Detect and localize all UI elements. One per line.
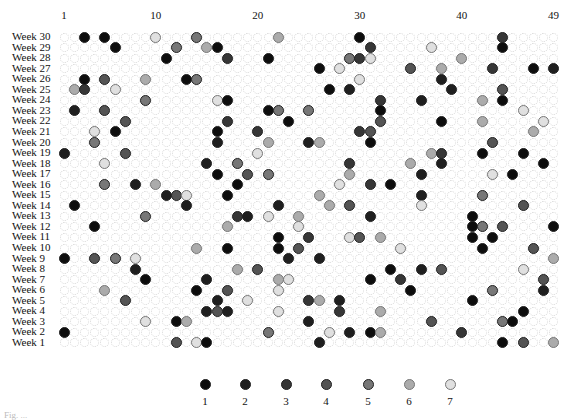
grid-cell xyxy=(90,307,99,316)
grid-cell xyxy=(233,127,242,136)
grid-cell xyxy=(386,338,395,347)
grid-cell xyxy=(233,138,242,147)
grid-cell xyxy=(386,307,395,316)
grid-cell xyxy=(90,286,99,295)
grid-cell xyxy=(202,222,211,231)
grid-cell xyxy=(386,54,395,63)
grid-cell xyxy=(60,286,69,295)
data-point xyxy=(538,285,549,296)
data-point xyxy=(334,295,345,306)
grid-cell xyxy=(151,191,160,200)
grid-cell xyxy=(345,212,354,221)
grid-cell xyxy=(243,233,252,242)
grid-cell xyxy=(274,127,283,136)
grid-cell xyxy=(202,265,211,274)
grid-cell xyxy=(406,222,415,231)
grid-cell xyxy=(70,222,79,231)
grid-cell xyxy=(396,159,405,168)
grid-cell xyxy=(539,127,548,136)
data-point xyxy=(528,63,539,74)
grid-cell xyxy=(100,244,109,253)
grid-cell xyxy=(417,138,426,147)
grid-cell xyxy=(100,212,109,221)
grid-cell xyxy=(508,54,517,63)
grid-cell xyxy=(141,222,150,231)
grid-cell xyxy=(60,296,69,305)
grid-cell xyxy=(335,317,344,326)
grid-cell xyxy=(498,275,507,284)
grid-cell xyxy=(478,85,487,94)
grid-cell xyxy=(131,317,140,326)
grid-cell xyxy=(529,265,538,274)
data-point xyxy=(528,243,539,254)
grid-cell xyxy=(355,222,364,231)
grid-cell xyxy=(100,338,109,347)
grid-cell xyxy=(468,138,477,147)
grid-cell xyxy=(315,85,324,94)
grid-cell xyxy=(386,43,395,52)
grid-cell xyxy=(80,254,89,263)
grid-cell xyxy=(233,275,242,284)
grid-cell xyxy=(264,201,273,210)
grid-cell xyxy=(264,191,273,200)
grid-cell xyxy=(80,180,89,189)
grid-cell xyxy=(284,338,293,347)
data-point xyxy=(477,190,488,201)
grid-cell xyxy=(294,338,303,347)
grid-cell xyxy=(386,328,395,337)
grid-cell xyxy=(274,85,283,94)
grid-cell xyxy=(355,159,364,168)
grid-cell xyxy=(151,201,160,210)
grid-cell xyxy=(213,338,222,347)
grid-cell xyxy=(376,43,385,52)
grid-cell xyxy=(284,201,293,210)
grid-cell xyxy=(264,275,273,284)
grid-cell xyxy=(406,33,415,42)
grid-cell xyxy=(386,296,395,305)
grid-cell xyxy=(427,85,436,94)
grid-cell xyxy=(325,212,334,221)
grid-cell xyxy=(274,159,283,168)
grid-cell xyxy=(539,212,548,221)
grid-cell xyxy=(417,233,426,242)
grid-cell xyxy=(192,191,201,200)
grid-cell xyxy=(468,254,477,263)
grid-cell xyxy=(274,212,283,221)
grid-cell xyxy=(213,106,222,115)
grid-cell xyxy=(172,138,181,147)
grid-cell xyxy=(100,117,109,126)
grid-cell xyxy=(437,296,446,305)
grid-cell xyxy=(539,191,548,200)
data-point xyxy=(222,116,233,127)
grid-cell xyxy=(519,275,528,284)
grid-cell xyxy=(498,307,507,316)
grid-cell xyxy=(264,96,273,105)
grid-cell xyxy=(131,127,140,136)
grid-cell xyxy=(345,307,354,316)
grid-cell xyxy=(264,64,273,73)
grid-cell xyxy=(498,106,507,115)
grid-cell xyxy=(121,275,130,284)
data-point xyxy=(212,137,223,148)
data-point xyxy=(365,42,376,53)
grid-cell xyxy=(202,138,211,147)
grid-cell xyxy=(213,254,222,263)
grid-cell xyxy=(223,317,232,326)
grid-cell xyxy=(162,275,171,284)
grid-cell xyxy=(70,191,79,200)
grid-cell xyxy=(70,149,79,158)
grid-cell xyxy=(468,265,477,274)
grid-cell xyxy=(355,85,364,94)
grid-cell xyxy=(192,307,201,316)
grid-cell xyxy=(294,233,303,242)
grid-cell xyxy=(111,149,120,158)
grid-cell xyxy=(366,201,375,210)
grid-cell xyxy=(498,159,507,168)
grid-cell xyxy=(447,54,456,63)
data-point xyxy=(263,327,274,338)
grid-cell xyxy=(376,265,385,274)
grid-cell xyxy=(366,254,375,263)
grid-cell xyxy=(539,201,548,210)
grid-cell xyxy=(131,75,140,84)
grid-cell xyxy=(90,201,99,210)
